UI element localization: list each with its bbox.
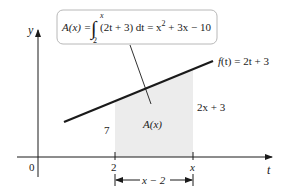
- formula-text: A(x) =: [61, 21, 91, 34]
- upper-limit-label: x: [189, 161, 195, 173]
- integral-upper-limit: x: [99, 11, 104, 20]
- diagram-canvas: y t 0 2 x f(t) = 2t + 3 A(x) 7 2x + 3 x …: [0, 0, 286, 194]
- right-height-label: 2x + 3: [197, 101, 226, 113]
- area-label: A(x): [142, 118, 162, 131]
- y-axis-label: y: [27, 23, 34, 37]
- formula-integrand: (2t + 3) dt = x2 + 3x − 10: [100, 19, 212, 34]
- function-label: f(t) = 2t + 3: [218, 55, 269, 68]
- lower-limit-label: 2: [111, 161, 117, 173]
- width-label: x − 2: [141, 174, 166, 186]
- integral-lower-limit: 2: [93, 36, 97, 45]
- shaded-area-region: [115, 69, 193, 157]
- t-axis-label: t: [267, 163, 271, 177]
- left-height-label: 7: [104, 124, 110, 136]
- origin-label: 0: [29, 161, 35, 173]
